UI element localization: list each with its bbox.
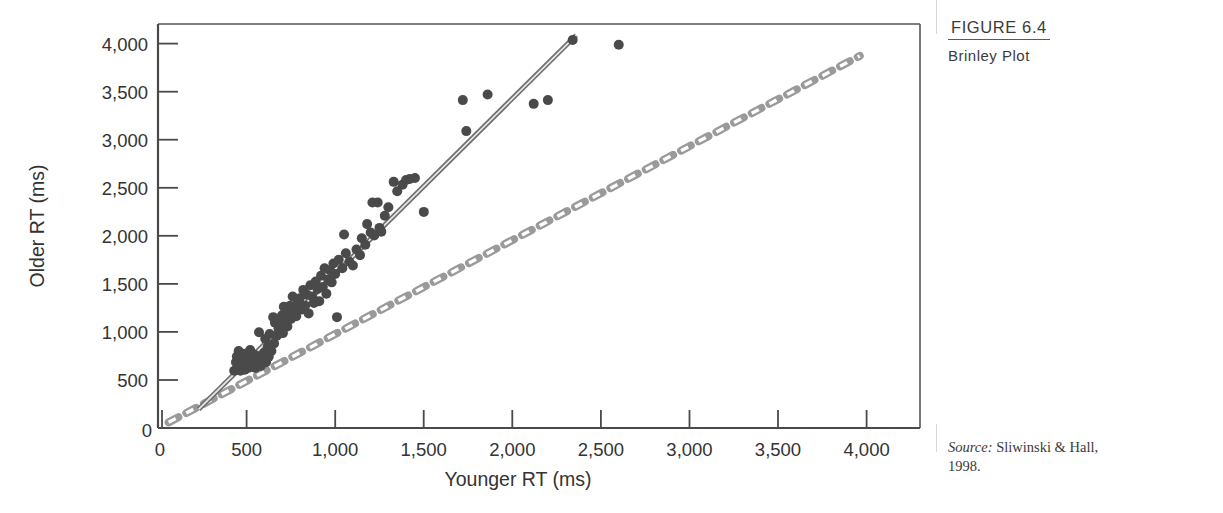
figure-caption: FIGURE 6.4 Brinley Plot [948,18,1198,65]
page-gutter-rule-bottom [936,424,937,452]
scatter-point [339,229,349,239]
scatter-point [419,207,429,217]
y-axis-title: Older RT (ms) [26,165,48,288]
source-label: Source: [948,439,993,455]
figure-number: FIGURE 6.4 [948,18,1050,40]
y-tick-label: 4,000 [102,34,148,55]
scatter-point [383,202,393,212]
figure-title: Brinley Plot [948,47,1198,65]
scatter-point [458,95,468,105]
scatter-point [410,173,420,183]
y-tick-label-zero: 0 [142,420,152,441]
source-note: Source: Sliwinski & Hall, 1998. [948,438,1203,475]
scatter-point [348,260,358,270]
x-axis-title: Younger RT (ms) [444,468,591,490]
x-tick-label: 2,500 [578,439,624,460]
scatter-point [389,177,399,187]
brinley-scatter-chart: 4,000 3,500 3,000 2,500 2,000 1,500 1,00… [0,0,930,500]
x-tick-label: 1,500 [401,439,447,460]
scatter-point [461,126,471,136]
scatter-point [321,289,331,299]
x-tick-label: 3,500 [755,439,801,460]
scatter-point [360,240,370,250]
y-tick-label: 2,500 [102,178,148,199]
y-tick-label: 3,500 [102,82,148,103]
y-tick-label: 500 [117,370,148,391]
scatter-point [543,95,553,105]
x-tick-label-zero: 0 [155,439,165,460]
scatter-point [376,227,386,237]
scatter-point [614,40,624,50]
x-tick-label: 1,000 [312,439,358,460]
y-axis-ticks [158,44,178,428]
y-tick-label: 2,000 [102,226,148,247]
scatter-point [529,99,539,109]
scatter-point [568,35,578,45]
scatter-point [355,250,365,260]
unity-reference-line [169,56,860,422]
scatter-point [483,89,493,99]
x-tick-labels: 0 500 1,000 1,500 2,000 2,500 3,000 3,50… [155,439,890,460]
x-tick-label: 500 [231,439,262,460]
source-year: 1998. [948,457,1203,476]
y-tick-label: 1,000 [102,322,148,343]
page-gutter-rule-top [936,0,937,34]
x-tick-label: 4,000 [843,439,889,460]
x-tick-label: 2,000 [489,439,535,460]
scatter-point [304,308,314,318]
source-text: Sliwinski & Hall, [993,439,1099,455]
y-tick-labels: 4,000 3,500 3,000 2,500 2,000 1,500 1,00… [102,34,152,442]
scatter-point [314,296,324,306]
scatter-point [373,198,383,208]
x-axis-ticks [247,410,867,428]
figure-container: 4,000 3,500 3,000 2,500 2,000 1,500 1,00… [0,0,1223,513]
x-tick-label: 3,000 [666,439,712,460]
scatter-point [332,312,342,322]
y-tick-label: 3,000 [102,130,148,151]
y-tick-label: 1,500 [102,274,148,295]
scatter-points-group [229,35,624,376]
